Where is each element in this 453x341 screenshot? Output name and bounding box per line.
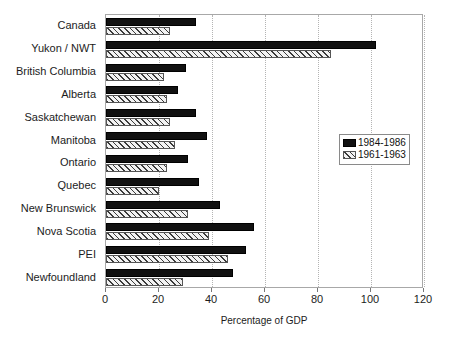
x-axis-tick [264,288,265,292]
legend-swatch-hatched-icon [343,151,356,159]
bar-new [106,109,196,117]
x-axis-tick-label: 100 [350,293,390,306]
bar-old [106,210,188,218]
bar-group [106,243,422,266]
bar-group [106,15,422,38]
bar-old [106,27,170,35]
bar-old [106,278,183,286]
y-axis-labels: CanadaYukon / NWTBritish ColumbiaAlberta… [0,14,100,288]
bar-old [106,187,159,195]
legend-swatch-solid-icon [343,139,356,147]
bar-new [106,201,220,209]
bar-old [106,95,167,103]
x-axis-title: Percentage of GDP [105,315,423,326]
x-axis-tick-label: 120 [403,293,443,306]
bar-new [106,64,186,72]
bar-new [106,155,188,163]
bar-group [106,175,422,198]
y-axis-label: Canada [57,19,96,31]
x-axis-tick-label: 0 [85,293,125,306]
y-axis-label: Ontario [60,156,96,168]
bar-new [106,41,376,49]
x-axis-tick [211,288,212,292]
bar-new [106,18,196,26]
bar-old [106,118,170,126]
bar-new [106,178,199,186]
y-axis-label: Nova Scotia [37,225,96,237]
bar-old [106,255,228,263]
x-axis-tick-label: 20 [138,293,178,306]
bar-group [106,198,422,221]
bar-group [106,38,422,61]
x-axis-tick [317,288,318,292]
y-axis-label: Yukon / NWT [31,42,96,54]
legend-label: 1984-1986 [358,137,406,149]
x-axis-tick-label: 60 [244,293,284,306]
bar-new [106,132,207,140]
bar-new [106,269,233,277]
bar-group [106,266,422,289]
bar-old [106,141,175,149]
bar-group [106,106,422,129]
gridline [424,15,425,287]
y-axis-label: New Brunswick [21,202,96,214]
bar-new [106,246,246,254]
bar-group [106,221,422,244]
bar-group [106,84,422,107]
bar-old [106,232,209,240]
bar-old [106,50,331,58]
bar-new [106,86,178,94]
x-axis-tick [370,288,371,292]
y-axis-label: Alberta [61,88,96,100]
legend: 1984-1986 1961-1963 [339,134,410,165]
y-axis-label: PEI [78,248,96,260]
bar-chart-figure: CanadaYukon / NWTBritish ColumbiaAlberta… [0,0,453,341]
x-axis-tick-label: 80 [297,293,337,306]
y-axis-label: British Columbia [16,65,96,77]
bar-group [106,61,422,84]
y-axis-label: Newfoundland [26,271,96,283]
legend-entry-1984-1986: 1984-1986 [343,137,406,149]
y-axis-label: Saskatchewan [24,111,96,123]
x-axis-tick-label: 40 [191,293,231,306]
x-axis-tick [423,288,424,292]
bar-old [106,164,167,172]
legend-entry-1961-1963: 1961-1963 [343,149,406,161]
bar-old [106,73,164,81]
legend-label: 1961-1963 [358,149,406,161]
y-axis-label: Manitoba [51,134,96,146]
x-axis-tick [158,288,159,292]
y-axis-label: Quebec [57,179,96,191]
bar-new [106,223,254,231]
x-axis-tick [105,288,106,292]
